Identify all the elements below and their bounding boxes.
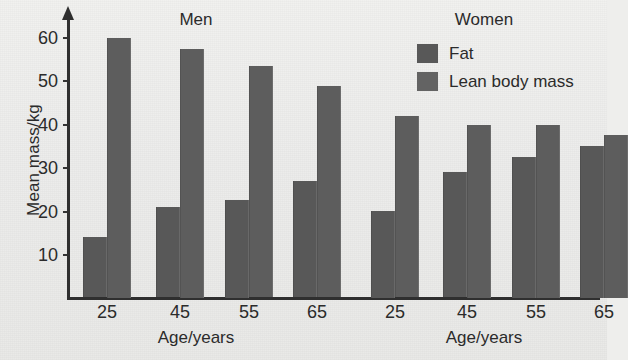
bar-women-55-fat (512, 157, 536, 298)
x-axis-label-women: Age/years (446, 328, 523, 348)
x-tick-women-45: 45 (457, 303, 477, 321)
legend-label-lean: Lean body mass (449, 73, 574, 90)
bar-women-65-fat (580, 146, 604, 297)
legend-item-fat: Fat (417, 44, 574, 63)
panel-title-women: Women (455, 10, 513, 30)
x-tick-men-65: 65 (307, 303, 327, 321)
x-tick-women-55: 55 (526, 303, 546, 321)
y-axis-line (67, 18, 70, 299)
y-tick-10: 10 (24, 246, 58, 264)
bar-men-55-fat (225, 200, 249, 297)
y-tick-30: 30 (24, 159, 58, 177)
bar-men-25-lean (107, 38, 131, 298)
x-tick-men-55: 55 (239, 303, 259, 321)
bar-men-45-lean (180, 49, 204, 298)
y-tick-50: 50 (24, 72, 58, 90)
x-tick-men-25: 25 (97, 303, 117, 321)
bar-men-65-fat (293, 181, 317, 298)
bar-women-45-fat (443, 172, 467, 297)
bar-men-65-lean (317, 86, 341, 298)
bar-women-65-lean (604, 135, 628, 297)
x-tick-women-65: 65 (594, 303, 614, 321)
bar-men-25-fat (83, 237, 107, 298)
x-tick-men-45: 45 (170, 303, 190, 321)
bar-men-55-lean (249, 66, 273, 297)
y-tick-60: 60 (24, 29, 58, 47)
bar-women-55-lean (536, 125, 560, 298)
bar-women-45-lean (467, 125, 491, 298)
bar-men-45-fat (156, 207, 180, 298)
legend-swatch-lean (417, 72, 438, 91)
bar-women-25-fat (371, 211, 395, 298)
y-tick-40: 40 (24, 116, 58, 134)
legend-item-lean: Lean body mass (417, 72, 574, 91)
legend-swatch-fat (417, 44, 438, 63)
x-tick-women-25: 25 (385, 303, 405, 321)
legend: Fat Lean body mass (417, 44, 574, 100)
panel-title-men: Men (179, 10, 212, 30)
bar-women-25-lean (395, 116, 419, 298)
y-tick-20: 20 (24, 203, 58, 221)
x-axis-label-men: Age/years (158, 328, 235, 348)
legend-label-fat: Fat (449, 45, 474, 62)
y-axis-tick-labels: 60 50 40 30 20 10 (24, 0, 58, 360)
